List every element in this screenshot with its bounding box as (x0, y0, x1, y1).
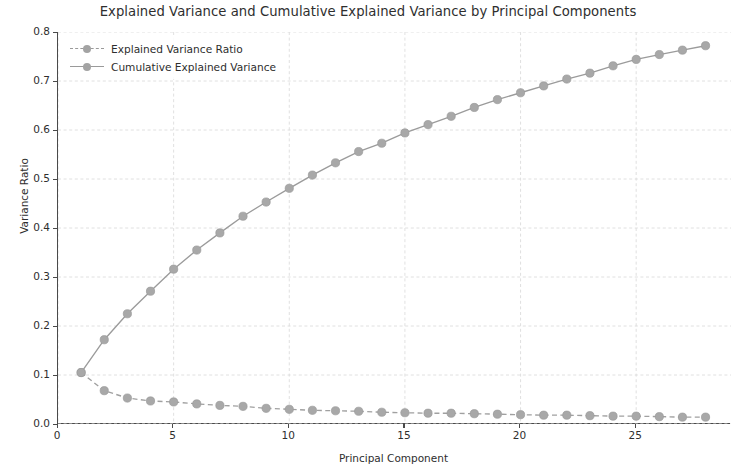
legend-item-cumulative-explained-variance[interactable]: Cumulative Explained Variance (70, 58, 276, 76)
data-point-marker (123, 310, 131, 318)
data-point-marker (540, 82, 548, 90)
data-point-marker (331, 159, 339, 167)
data-point-marker (331, 407, 339, 415)
y-axis-tick-label: 0.8 (6, 26, 50, 37)
data-point-marker (355, 147, 363, 155)
data-point-marker (146, 397, 154, 405)
data-point-marker (77, 368, 85, 376)
data-point-marker (285, 405, 293, 413)
data-point-marker (378, 408, 386, 416)
plot-area (57, 32, 730, 424)
y-axis-tick-label: 0.3 (6, 271, 50, 282)
data-point-marker (678, 413, 686, 421)
data-point-marker (216, 229, 224, 237)
data-point-marker (100, 387, 108, 395)
data-point-marker (540, 411, 548, 419)
legend-label: Cumulative Explained Variance (111, 61, 276, 73)
data-point-marker (100, 336, 108, 344)
data-point-marker (239, 402, 247, 410)
x-axis-tick-mark (403, 424, 404, 428)
data-point-marker (447, 112, 455, 120)
x-axis-tick-label: 5 (153, 430, 193, 441)
y-axis-label: Variance Ratio (18, 136, 30, 256)
legend-swatch-dashed-line-icon (70, 42, 104, 56)
y-axis-tick-label: 0.2 (6, 320, 50, 331)
data-point-marker (262, 198, 270, 206)
data-point-marker (170, 265, 178, 273)
data-point-marker (470, 410, 478, 418)
data-point-marker (516, 411, 524, 419)
data-point-marker (401, 129, 409, 137)
data-point-marker (632, 412, 640, 420)
data-point-marker (401, 409, 409, 417)
data-point-marker (308, 406, 316, 414)
y-axis-tick-label: 0.5 (6, 173, 50, 184)
data-point-marker (378, 139, 386, 147)
data-point-marker (493, 410, 501, 418)
y-axis-tick-label: 0.4 (6, 222, 50, 233)
x-axis-tick-label: 25 (615, 430, 655, 441)
data-point-marker (170, 398, 178, 406)
figure-canvas: Explained Variance and Cumulative Explai… (0, 0, 736, 473)
series-line-0 (81, 373, 705, 418)
x-axis-tick-mark (635, 424, 636, 428)
data-point-marker (516, 89, 524, 97)
data-point-marker (563, 411, 571, 419)
y-axis-tick-label: 0.0 (6, 418, 50, 429)
data-point-marker (193, 246, 201, 254)
x-axis-tick-mark (172, 424, 173, 428)
chart-title: Explained Variance and Cumulative Explai… (0, 4, 736, 19)
data-point-marker (355, 407, 363, 415)
y-axis-tick-label: 0.7 (6, 75, 50, 86)
x-axis-tick-mark (519, 424, 520, 428)
data-point-marker (701, 413, 709, 421)
x-axis-label: Principal Component (57, 452, 730, 464)
x-axis-tick-mark (288, 424, 289, 428)
y-axis-tick-label: 0.1 (6, 369, 50, 380)
series-line-1 (81, 46, 705, 373)
data-point-marker (424, 121, 432, 129)
gridlines (58, 32, 731, 424)
data-point-marker (308, 171, 316, 179)
data-point-marker (586, 69, 594, 77)
plot-svg (58, 32, 731, 424)
x-axis-tick-label: 20 (500, 430, 540, 441)
data-point-marker (193, 400, 201, 408)
legend-item-explained-variance-ratio[interactable]: Explained Variance Ratio (70, 40, 276, 58)
x-axis-tick-mark (57, 424, 58, 428)
data-point-marker (216, 401, 224, 409)
data-point-marker (678, 46, 686, 54)
data-point-marker (447, 409, 455, 417)
data-point-marker (146, 287, 154, 295)
data-point-marker (563, 75, 571, 83)
legend-swatch-solid-line-icon (70, 60, 104, 74)
data-point-marker (470, 103, 478, 111)
data-point-marker (655, 413, 663, 421)
x-axis-tick-label: 0 (37, 430, 77, 441)
legend: Explained Variance Ratio Cumulative Expl… (66, 37, 284, 79)
legend-label: Explained Variance Ratio (111, 43, 243, 55)
data-point-marker (123, 394, 131, 402)
data-point-marker (632, 55, 640, 63)
y-axis-tick-label: 0.6 (6, 124, 50, 135)
data-point-marker (655, 50, 663, 58)
data-point-marker (701, 42, 709, 50)
data-series-layer (77, 42, 710, 422)
data-point-marker (609, 412, 617, 420)
data-point-marker (262, 404, 270, 412)
data-point-marker (424, 409, 432, 417)
data-point-marker (285, 184, 293, 192)
data-point-marker (493, 96, 501, 104)
data-point-marker (609, 62, 617, 70)
data-point-marker (239, 212, 247, 220)
x-axis-tick-label: 15 (384, 430, 424, 441)
x-axis-tick-label: 10 (268, 430, 308, 441)
data-point-marker (586, 412, 594, 420)
